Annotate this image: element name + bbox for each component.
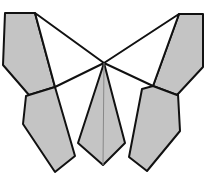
lower-left-wing	[23, 87, 75, 172]
lower-right-wing	[129, 86, 180, 171]
butterfly-diagram	[0, 0, 209, 179]
body	[78, 63, 125, 165]
